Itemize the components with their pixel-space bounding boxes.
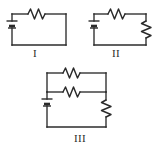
- circuit-3-resistor-parallel-lower: [63, 87, 80, 97]
- circuit-3-resistor-series-right: [102, 100, 112, 117]
- circuit-1-label: I: [22, 47, 48, 59]
- circuit-2-resistor-top: [108, 9, 125, 19]
- circuit-2-resistor-right: [142, 21, 152, 38]
- circuit-3-group: [42, 68, 112, 127]
- circuit-1-resistor-top: [28, 9, 45, 19]
- circuit-2-group: [89, 9, 152, 45]
- circuit-diagram-canvas: [0, 0, 164, 152]
- circuit-1-group: [7, 9, 67, 45]
- circuit-figure: I II III: [0, 0, 164, 152]
- circuit-3-resistor-parallel-upper: [63, 68, 80, 78]
- circuit-2-label: II: [103, 47, 129, 59]
- circuit-3-label: III: [65, 132, 95, 144]
